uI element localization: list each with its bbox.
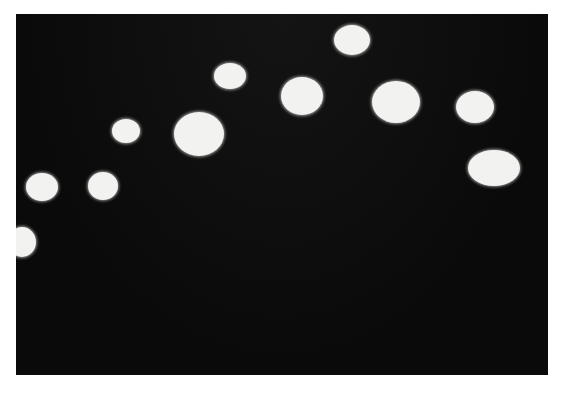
bright-spot — [88, 172, 118, 200]
bright-spot — [26, 173, 58, 201]
bright-spot — [456, 91, 494, 123]
bright-spot — [174, 112, 224, 156]
bright-spot — [214, 63, 246, 89]
bright-spot — [468, 150, 520, 186]
bright-spot — [112, 119, 140, 143]
dark-photograph — [16, 14, 548, 375]
bright-spot — [372, 81, 420, 123]
bright-spot — [281, 77, 323, 115]
bright-spot — [16, 227, 36, 257]
bright-spot — [334, 25, 370, 55]
